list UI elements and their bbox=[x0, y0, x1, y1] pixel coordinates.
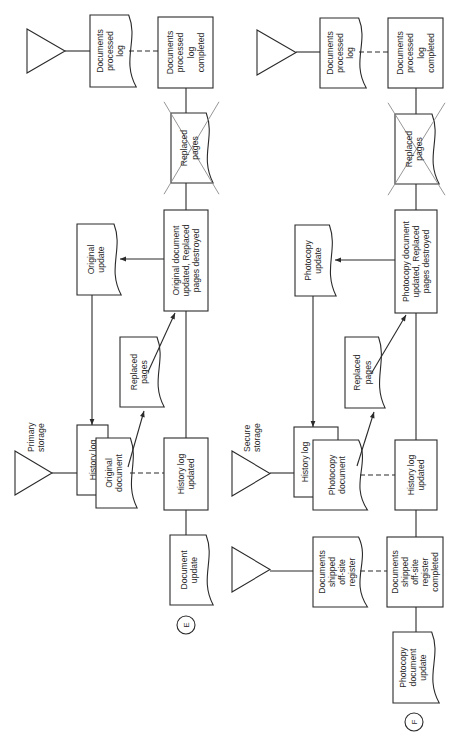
arrow-to-photocopy-update-arrowhead-icon bbox=[335, 258, 341, 263]
photocopy-document-updated-box-label-line: Photocopy document bbox=[401, 221, 411, 302]
arrow-to-history-log bbox=[90, 295, 95, 425]
photocopy-update-doc-label-line: update bbox=[313, 247, 323, 274]
replaced-pages-doc-label-line: Replaced bbox=[352, 354, 362, 391]
photocopy-document-doc-label-line: document bbox=[337, 456, 347, 494]
history-log-updated-box-label-line: updated bbox=[416, 459, 426, 490]
replaced-pages-doc-label-line: pages bbox=[139, 360, 149, 383]
documents-shipped-register-completed-box-label-line: off-site bbox=[410, 559, 420, 585]
arrow-replaced-pages-to-update-arrowhead-icon bbox=[401, 315, 406, 321]
photocopy-document-update-doc-label-line: update bbox=[418, 654, 428, 681]
photocopy-document-update-doc-label-line: document bbox=[408, 648, 418, 686]
arrow-replaced-pages-to-update-arrowhead-icon bbox=[170, 313, 175, 319]
documents-processed-log-completed-box-label-line: log bbox=[186, 47, 196, 59]
replaced-pages-destroyed-doc: Replacedpages bbox=[388, 103, 445, 195]
arrow-to-original-update bbox=[120, 257, 164, 262]
history-log-updated-box-label-line: History log bbox=[406, 454, 416, 495]
history-log-updated-box: History logupdated bbox=[164, 438, 208, 510]
original-document-updated-box: Original documentupdated, Replacedpages … bbox=[164, 210, 208, 311]
replaced-pages-destroyed-doc-label-line: pages bbox=[414, 137, 424, 160]
documents-shipped-register-doc-label-line: register bbox=[347, 558, 357, 587]
secure-storage-label-line: Secure bbox=[242, 425, 252, 452]
arrow-to-original-update-arrowhead-icon bbox=[120, 257, 126, 262]
original-update-doc-label-line: Original bbox=[86, 245, 96, 275]
connector-f: F bbox=[405, 713, 423, 731]
arrow-document-to-replaced-pages-line bbox=[357, 412, 374, 466]
arrow-document-to-replaced-pages-arrowhead-icon bbox=[140, 411, 145, 417]
photocopy-document-update-doc-label-line: Photocopy bbox=[398, 646, 408, 687]
arrow-to-history-log-arrowhead-icon bbox=[311, 421, 316, 427]
documents-shipped-register-doc-label-line: shipped bbox=[327, 557, 337, 587]
documents-processed-log-completed-box: Documentsprocessedlogcompleted bbox=[158, 17, 213, 88]
original-document-updated-box-label: Original documentupdated, Replacedpages … bbox=[171, 224, 201, 296]
primary-storage-triangle bbox=[15, 451, 52, 495]
documents-shipped-register-doc: Documentsshippedoff-siteregister bbox=[313, 537, 367, 607]
storage-triangle-top bbox=[27, 29, 65, 73]
original-document-doc-label-line: Original bbox=[104, 458, 114, 488]
primary-storage-label-line: storage bbox=[36, 423, 46, 452]
primary-storage-label: Primarystorage bbox=[26, 422, 46, 452]
photocopy-document-doc-label: Photocopydocument bbox=[327, 454, 347, 495]
documents-shipped-register-doc-label-line: off-site bbox=[337, 559, 347, 585]
replaced-pages-destroyed-doc: Replacedpages bbox=[164, 102, 219, 194]
photocopy-update-doc-label-line: Photocopy bbox=[303, 239, 313, 280]
documents-shipped-register-completed-box-label-line: shipped bbox=[400, 557, 410, 587]
documents-processed-log-completed-box-label-line: processed bbox=[175, 32, 185, 72]
documents-processed-log-completed-box-label-line: processed bbox=[405, 33, 415, 73]
documents-processed-log-completed-box-label-line: log bbox=[416, 47, 426, 59]
original-document-doc-label: Originaldocument bbox=[104, 454, 124, 492]
secure-storage-label-line: storage bbox=[252, 423, 262, 452]
secure-storage-triangle bbox=[232, 451, 270, 496]
documents-processed-log-completed-box-label-line: completed bbox=[426, 33, 436, 73]
documents-processed-log-completed-box-label-line: Documents bbox=[165, 31, 175, 74]
arrow-to-photocopy-update bbox=[335, 258, 395, 263]
replaced-pages-doc-label-line: Replaced bbox=[129, 354, 139, 391]
flowchart-diagram: DocumentsprocessedlogDocumentsprocessedl… bbox=[0, 0, 457, 738]
photocopy-document-updated-box-label: Photocopy documentupdated, Replacedpages… bbox=[401, 221, 431, 302]
arrow-to-history-log bbox=[311, 296, 316, 427]
documents-processed-log-doc-label-line: log bbox=[345, 47, 355, 59]
photocopy-update-doc: Photocopyupdate bbox=[295, 225, 336, 296]
history-log-updated-box: History logupdated bbox=[395, 440, 437, 510]
photocopy-document-update-doc: Photocopydocumentupdate bbox=[393, 632, 439, 703]
photocopy-document-updated-box-label-line: updated, Replaced bbox=[411, 225, 421, 297]
history-log-label-line: History log bbox=[300, 441, 310, 482]
photocopy-document-updated-box: Photocopy documentupdated, Replacedpages… bbox=[395, 210, 437, 313]
replaced-pages-doc-label-line: pages bbox=[363, 361, 373, 384]
documents-processed-log-doc-label-line: Documents bbox=[325, 31, 335, 74]
history-log-updated-box-label: History logupdated bbox=[406, 454, 426, 495]
original-document-updated-box-label-line: pages destroyed bbox=[191, 229, 201, 293]
documents-shipped-register-completed-box-label-line: Documents bbox=[390, 550, 400, 593]
shipped-storage-triangle bbox=[232, 547, 270, 592]
history-log-label: History log bbox=[300, 441, 310, 482]
history-log-updated-box-label: History logupdated bbox=[176, 453, 196, 494]
replaced-pages-doc: Replacedpages bbox=[120, 337, 164, 407]
history-log-updated-box-label-line: History log bbox=[176, 453, 186, 494]
arrow-document-to-replaced-pages-arrowhead-icon bbox=[370, 412, 375, 418]
document-update-doc-label-line: Document bbox=[179, 550, 189, 590]
documents-processed-log-completed-box: Documentsprocessedlogcompleted bbox=[388, 18, 443, 88]
original-document-doc-label-line: document bbox=[114, 454, 124, 492]
replaced-pages-destroyed-doc-label-line: Replaced bbox=[404, 131, 414, 168]
documents-processed-log-doc-label-line: processed bbox=[335, 33, 345, 73]
photocopy-document-doc-label-line: Photocopy bbox=[327, 454, 337, 495]
photocopy-document-doc: Photocopydocument bbox=[313, 440, 367, 510]
original-update-doc-label-line: update bbox=[96, 246, 106, 273]
history-log-updated-box-label-line: updated bbox=[186, 458, 196, 489]
arrow-to-history-log-arrowhead-icon bbox=[90, 419, 95, 425]
documents-processed-log-doc-label-line: processed bbox=[105, 31, 115, 71]
original-document-updated-box-label-line: Original document bbox=[171, 225, 181, 295]
replaced-pages-doc: Replacedpages bbox=[345, 337, 385, 408]
arrow-document-to-replaced-pages bbox=[357, 412, 374, 466]
original-update-doc: Originalupdate bbox=[77, 224, 121, 295]
connector-f-label: F bbox=[410, 719, 419, 724]
document-update-doc-label-line: update bbox=[189, 557, 199, 584]
documents-processed-log-doc-label-line: Documents bbox=[95, 29, 105, 72]
replaced-pages-destroyed-doc-label-line: Replaced bbox=[179, 130, 189, 167]
original-update-doc-label: Originalupdate bbox=[86, 245, 106, 275]
documents-processed-log-doc: Documentsprocessedlog bbox=[320, 18, 366, 88]
replaced-pages-destroyed-doc-label-line: pages bbox=[190, 136, 200, 159]
documents-processed-log-completed-box-label-line: completed bbox=[196, 32, 206, 72]
secure-storage-label: Securestorage bbox=[242, 423, 262, 452]
documents-processed-log-completed-box-label-line: Documents bbox=[395, 31, 405, 74]
primary-storage-label-line: Primary bbox=[26, 422, 36, 452]
